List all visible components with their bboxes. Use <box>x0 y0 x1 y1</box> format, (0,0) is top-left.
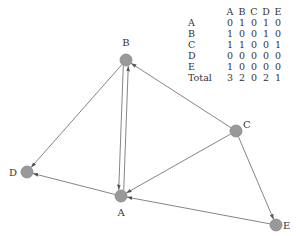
table-cell: 0 <box>236 50 248 61</box>
edge-c-to-a <box>126 134 231 193</box>
edge-a-to-b <box>124 66 129 190</box>
table-cell: 0 <box>272 61 284 72</box>
node-label-c: C <box>243 119 251 130</box>
node-d <box>21 166 33 178</box>
table-cell: 0 <box>272 28 284 39</box>
column-header: A <box>224 6 236 17</box>
table-cell: 2 <box>260 72 272 83</box>
node-label-e: E <box>283 220 290 231</box>
node-label-a: A <box>116 207 125 218</box>
table-cell: 3 <box>224 72 236 83</box>
column-header: E <box>272 6 284 17</box>
row-header: D <box>188 50 224 61</box>
row-header: E <box>188 61 224 72</box>
table-cell: 0 <box>248 28 260 39</box>
table-cell: 1 <box>260 17 272 28</box>
edge-b-to-d <box>31 64 122 167</box>
graph-edges <box>31 63 274 224</box>
table-cell: 1 <box>272 39 284 50</box>
node-label-b: B <box>122 37 129 48</box>
node-c <box>230 125 242 137</box>
table-cell: 0 <box>248 17 260 28</box>
row-header: A <box>188 17 224 28</box>
table-cell: 0 <box>272 50 284 61</box>
table-cell: 0 <box>236 28 248 39</box>
node-e <box>270 219 282 231</box>
table-row: C 1 1 0 0 1 <box>188 39 284 50</box>
table-cell: 0 <box>224 50 236 61</box>
table-row: D 0 0 0 0 0 <box>188 50 284 61</box>
table-cell: 1 <box>272 72 284 83</box>
column-header: D <box>260 6 272 17</box>
table-cell: 0 <box>260 39 272 50</box>
table-corner <box>188 6 224 17</box>
table-cell: 0 <box>236 61 248 72</box>
table-cell: 0 <box>248 39 260 50</box>
table-cell: 0 <box>248 61 260 72</box>
table-cell: 1 <box>224 61 236 72</box>
edge-a-to-d <box>33 173 115 194</box>
table-cell: 1 <box>224 28 236 39</box>
table-cell: 0 <box>248 50 260 61</box>
row-header: C <box>188 39 224 50</box>
node-b <box>120 54 132 66</box>
table-cell: 0 <box>272 17 284 28</box>
table-cell: 1 <box>236 39 248 50</box>
adjacency-table: A B C D E A 0 1 0 1 0 B 1 0 0 1 0 C 1 1 … <box>188 6 284 83</box>
column-header: C <box>248 6 260 17</box>
table-cell: 1 <box>236 17 248 28</box>
table-row: B 1 0 0 1 0 <box>188 28 284 39</box>
edge-e-to-a <box>127 197 270 224</box>
table-cell: 0 <box>224 17 236 28</box>
table-cell: 2 <box>236 72 248 83</box>
edge-b-to-a <box>119 66 124 190</box>
table-total-row: Total 3 2 0 2 1 <box>188 72 284 83</box>
node-label-d: D <box>9 167 17 178</box>
table-row: A 0 1 0 1 0 <box>188 17 284 28</box>
table-cell: 0 <box>260 50 272 61</box>
row-header: Total <box>188 72 224 83</box>
column-header: B <box>236 6 248 17</box>
node-a <box>115 190 127 202</box>
table-row: E 1 0 0 0 0 <box>188 61 284 72</box>
row-header: B <box>188 28 224 39</box>
table-cell: 1 <box>224 39 236 50</box>
table-cell: 0 <box>248 72 260 83</box>
table-cell: 0 <box>260 61 272 72</box>
table-cell: 1 <box>260 28 272 39</box>
table-header-row: A B C D E <box>188 6 284 17</box>
edge-c-to-e <box>238 137 273 220</box>
